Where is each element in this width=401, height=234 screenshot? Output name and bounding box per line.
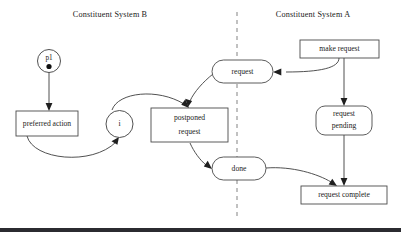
edge-postponed-request-to-done [190,143,212,169]
edge-preferred-action-to-i [27,136,119,157]
node-postponed-request[interactable]: postponed request [151,108,228,142]
request-label: request [232,67,255,76]
node-make-request[interactable]: make request [300,40,379,58]
edge-make-request-to-request [273,58,339,75]
postponed-request-label-line2: request [179,127,202,136]
edge-p1-to-preferred-action [46,72,53,111]
lane-title-left: Constituent System B [73,10,148,19]
preferred-action-label: preferred action [23,119,71,128]
node-request-complete[interactable]: request complete [301,186,387,204]
request-pending-label-line1: request [333,109,356,118]
diagram-canvas: Constituent System B Constituent System … [0,0,401,234]
edge-make-request-to-request-pending [341,58,348,106]
edge-done-to-request-complete [266,168,337,186]
p1-label: p1 [45,54,53,62]
i-label: i [118,119,120,128]
edge-request-pending-to-request-complete [341,134,348,186]
done-label: done [232,164,247,173]
postponed-request-label-line1: postponed [174,113,205,122]
node-preferred-action[interactable]: preferred action [16,111,78,136]
node-request[interactable]: request [212,60,273,83]
lane-title-right: Constituent System A [276,10,350,19]
request-complete-label: request complete [318,190,370,199]
node-request-pending[interactable]: request pending [316,106,372,135]
node-p1[interactable]: p1 [38,50,61,73]
edge-request-to-postponed-request [185,74,213,107]
bottom-rule [0,228,401,232]
node-i[interactable]: i [106,111,133,138]
node-done[interactable]: done [212,157,266,180]
p1-token-dot [46,64,51,69]
make-request-label: make request [319,44,360,53]
request-pending-label-line2: pending [332,121,357,130]
